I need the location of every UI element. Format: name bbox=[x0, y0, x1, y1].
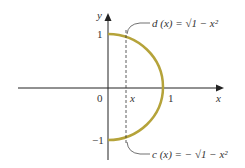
dashed-x-label: x bbox=[129, 92, 135, 104]
semicircle-diagram: y x 0 x 1 1 −1 d (x) = √1 − x² c (x) = −… bbox=[0, 0, 245, 168]
y-tick-one: 1 bbox=[97, 28, 103, 40]
x-tick-one: 1 bbox=[168, 92, 174, 104]
y-axis-label: y bbox=[96, 9, 102, 21]
semicircle-curve bbox=[108, 34, 163, 140]
y-axis-arrow-icon bbox=[105, 13, 112, 21]
upper-curve-label: d (x) = √1 − x² bbox=[152, 17, 219, 30]
x-axis-label: x bbox=[215, 92, 221, 104]
leader-upper bbox=[127, 23, 150, 34]
lower-curve-label: c (x) = − √1 − x² bbox=[152, 148, 228, 161]
y-tick-neg-one: −1 bbox=[92, 134, 104, 146]
leader-lower bbox=[127, 142, 150, 154]
x-axis-arrow-icon bbox=[216, 85, 224, 92]
origin-label: 0 bbox=[97, 92, 103, 104]
